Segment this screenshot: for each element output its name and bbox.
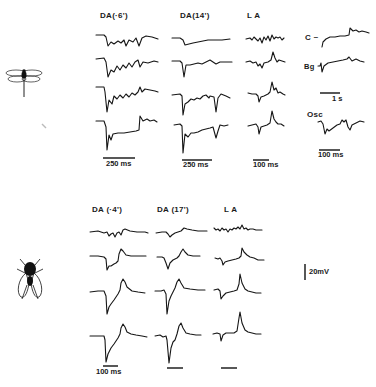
column-label-top-la: L A	[247, 11, 260, 20]
scale-label-top-la: 100 ms	[253, 160, 278, 169]
trace-group-inset	[318, 28, 369, 134]
trace-group-bottom-la	[213, 225, 264, 341]
figure-canvas	[0, 0, 376, 387]
scale-label-inset-1s: 1 s	[332, 94, 342, 103]
trace-group-top-da6	[96, 35, 158, 150]
scale-label-bottom-da4: 100 ms	[96, 367, 121, 376]
inset-label-bg: Bg	[304, 62, 315, 71]
c-label-text: C	[305, 33, 311, 42]
column-label-top-da14: DA(14')	[180, 11, 210, 20]
scale-label-inset-100ms: 100 ms	[318, 150, 343, 159]
trace-group-bottom-da4	[90, 229, 148, 362]
column-label-bottom-la: L A	[224, 205, 237, 214]
trace-group-top-la	[246, 35, 285, 134]
smudge-mark	[42, 124, 46, 128]
trace-group-top-da14	[172, 38, 232, 153]
column-label-top-da6: DA(·6')	[100, 11, 128, 20]
dragonfly-icon	[6, 69, 42, 97]
voltage-scale-label: 20mV	[309, 267, 329, 276]
inset-label-osc: Osc	[307, 110, 323, 119]
column-label-bottom-da17: DA (17')	[157, 205, 189, 214]
inset-label-c: C ~	[305, 33, 319, 42]
trace-group-bottom-da17	[155, 228, 207, 363]
fly-icon	[17, 259, 43, 299]
scale-label-top-da6: 250 ms	[106, 159, 131, 168]
column-label-bottom-da4: DA (·4')	[92, 205, 122, 214]
scale-label-top-da14: 250 ms	[183, 160, 208, 169]
